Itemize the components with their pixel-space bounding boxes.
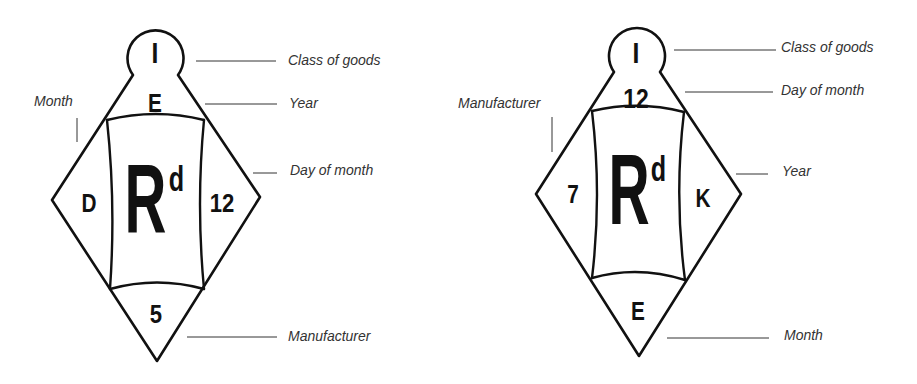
left-cell-class-of-goods: I bbox=[152, 37, 159, 69]
right-label-class-of-goods: Class of goods bbox=[781, 39, 874, 55]
left-registered-d: d bbox=[169, 159, 184, 200]
right-diamond-mark: I 12 7 K E R d Class of goods Day of mon… bbox=[458, 28, 874, 356]
right-label-year: Year bbox=[782, 163, 812, 179]
right-cell-manufacturer: 7 bbox=[567, 180, 579, 209]
right-label-month: Month bbox=[784, 327, 823, 343]
left-label-year: Year bbox=[289, 95, 319, 111]
right-cell-year: K bbox=[695, 184, 710, 213]
registration-diamond-diagram: I E D 12 5 R d Class of goods Year Day o… bbox=[0, 0, 917, 384]
left-registered-r: R bbox=[125, 144, 167, 254]
right-label-manufacturer: Manufacturer bbox=[458, 95, 542, 111]
right-bottom-curve bbox=[592, 272, 685, 280]
left-label-class-of-goods: Class of goods bbox=[288, 52, 381, 68]
left-cell-manufacturer: 5 bbox=[150, 299, 162, 328]
right-left-curve bbox=[592, 111, 597, 278]
left-left-curve bbox=[107, 120, 112, 289]
left-cell-year: E bbox=[148, 89, 162, 118]
left-bottom-curve bbox=[110, 283, 204, 290]
left-label-month: Month bbox=[34, 93, 73, 109]
left-label-day-of-month: Day of month bbox=[290, 162, 373, 178]
left-cell-day-of-month: 12 bbox=[210, 188, 235, 217]
right-registered-r: R bbox=[608, 133, 649, 245]
left-diamond-mark: I E D 12 5 R d Class of goods Year Day o… bbox=[34, 30, 381, 361]
left-label-manufacturer: Manufacturer bbox=[288, 328, 372, 344]
right-label-day-of-month: Day of month bbox=[781, 82, 864, 98]
right-cell-class-of-goods: I bbox=[633, 37, 640, 69]
left-cell-month: D bbox=[81, 189, 96, 218]
right-right-curve bbox=[679, 112, 685, 280]
right-cell-month: E bbox=[631, 297, 645, 326]
left-right-curve bbox=[200, 120, 204, 289]
right-registered-d: d bbox=[651, 149, 666, 190]
right-cell-day-of-month: 12 bbox=[623, 83, 649, 113]
